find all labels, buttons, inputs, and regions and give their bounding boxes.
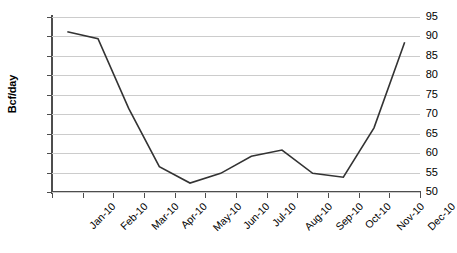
- x-tick-label: Feb-10: [118, 200, 150, 232]
- gridline: [52, 56, 420, 57]
- y-tick-mark: [47, 173, 51, 174]
- x-tick-label: Jul-10: [270, 200, 299, 229]
- x-tick-mark: [52, 193, 53, 198]
- x-tick-label: Jan-10: [87, 200, 118, 231]
- x-tick-label: Apr-10: [179, 200, 210, 231]
- x-tick-mark: [420, 193, 421, 198]
- y-axis-title: Bcf/day: [6, 64, 18, 124]
- gridline: [52, 95, 420, 96]
- gridline: [52, 173, 420, 174]
- gridline: [52, 153, 420, 154]
- x-tick-mark: [83, 193, 84, 198]
- plot-area: [52, 17, 420, 192]
- x-tick-mark: [175, 193, 176, 198]
- x-tick-label: Aug-10: [302, 200, 334, 232]
- x-tick-mark: [328, 193, 329, 198]
- y-tick-mark: [47, 56, 51, 57]
- x-tick-label: Mar-10: [148, 200, 180, 232]
- x-tick-mark: [113, 193, 114, 198]
- x-tick-mark: [236, 193, 237, 198]
- y-tick-mark: [47, 114, 51, 115]
- x-tick-mark: [144, 193, 145, 198]
- x-tick-label: Oct-10: [363, 200, 394, 231]
- x-tick-mark: [359, 193, 360, 198]
- y-tick-mark: [47, 75, 51, 76]
- x-tick-mark: [297, 193, 298, 198]
- gridline: [52, 75, 420, 76]
- x-tick-label: Nov-10: [394, 200, 426, 232]
- x-tick-mark: [267, 193, 268, 198]
- y-tick-mark: [47, 192, 51, 193]
- x-tick-label: Dec-10: [425, 200, 457, 232]
- y-tick-mark: [47, 95, 51, 96]
- y-tick-mark: [47, 17, 51, 18]
- y-tick-mark: [47, 153, 51, 154]
- x-tick-label: Sep-10: [333, 200, 365, 232]
- gridline: [52, 17, 420, 18]
- x-tick-mark: [389, 193, 390, 198]
- gridline: [52, 134, 420, 135]
- gridline: [52, 114, 420, 115]
- gridline: [52, 36, 420, 37]
- y-tick-mark: [47, 134, 51, 135]
- x-tick-label: Jun-10: [240, 200, 271, 231]
- y-tick-mark: [47, 36, 51, 37]
- x-tick-label: May-10: [210, 200, 243, 233]
- x-tick-mark: [205, 193, 206, 198]
